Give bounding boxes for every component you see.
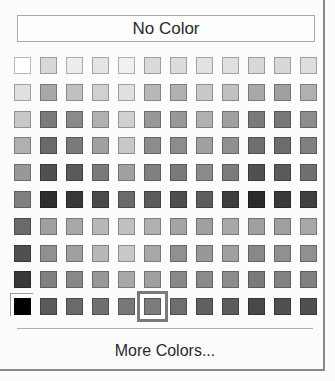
color-swatch-r1-c9[interactable] xyxy=(248,84,265,101)
color-swatch-r5-c11[interactable] xyxy=(300,191,317,208)
color-swatch-r8-c5[interactable] xyxy=(144,271,161,288)
color-swatch-r6-c10[interactable] xyxy=(274,218,291,235)
color-swatch-r7-c11[interactable] xyxy=(300,245,317,262)
color-swatch-r2-c1[interactable] xyxy=(40,111,57,128)
color-swatch-r1-c7[interactable] xyxy=(196,84,213,101)
color-swatch-r9-c3[interactable] xyxy=(92,298,109,315)
color-swatch-r7-c3[interactable] xyxy=(92,245,109,262)
color-swatch-r0-c9[interactable] xyxy=(248,57,265,74)
color-swatch-r2-c10[interactable] xyxy=(274,111,291,128)
color-swatch-r9-c0[interactable] xyxy=(14,298,31,315)
color-swatch-r1-c11[interactable] xyxy=(300,84,317,101)
color-swatch-r6-c5[interactable] xyxy=(144,218,161,235)
color-swatch-r0-c10[interactable] xyxy=(274,57,291,74)
color-swatch-r5-c4[interactable] xyxy=(118,191,135,208)
color-swatch-r5-c2[interactable] xyxy=(66,191,83,208)
color-swatch-r4-c1[interactable] xyxy=(40,164,57,181)
color-swatch-r2-c5[interactable] xyxy=(144,111,161,128)
color-swatch-r6-c4[interactable] xyxy=(118,218,135,235)
color-swatch-r2-c0[interactable] xyxy=(14,111,31,128)
color-swatch-r7-c9[interactable] xyxy=(248,245,265,262)
color-swatch-r3-c0[interactable] xyxy=(14,137,31,154)
color-swatch-r2-c9[interactable] xyxy=(248,111,265,128)
color-swatch-r0-c0[interactable] xyxy=(14,57,31,74)
color-swatch-r1-c0[interactable] xyxy=(14,84,31,101)
color-swatch-r0-c3[interactable] xyxy=(92,57,109,74)
color-swatch-r7-c0[interactable] xyxy=(14,245,31,262)
color-swatch-r9-c10[interactable] xyxy=(274,298,291,315)
color-swatch-r9-c7[interactable] xyxy=(196,298,213,315)
color-swatch-r4-c10[interactable] xyxy=(274,164,291,181)
color-swatch-r0-c8[interactable] xyxy=(222,57,239,74)
color-swatch-r6-c3[interactable] xyxy=(92,218,109,235)
color-swatch-r4-c6[interactable] xyxy=(170,164,187,181)
color-swatch-r2-c3[interactable] xyxy=(92,111,109,128)
color-swatch-r8-c9[interactable] xyxy=(248,271,265,288)
color-swatch-r5-c6[interactable] xyxy=(170,191,187,208)
color-swatch-r8-c3[interactable] xyxy=(92,271,109,288)
color-swatch-r6-c7[interactable] xyxy=(196,218,213,235)
color-swatch-r8-c10[interactable] xyxy=(274,271,291,288)
color-swatch-r9-c9[interactable] xyxy=(248,298,265,315)
color-swatch-r0-c5[interactable] xyxy=(144,57,161,74)
color-swatch-r7-c7[interactable] xyxy=(196,245,213,262)
color-swatch-r0-c6[interactable] xyxy=(170,57,187,74)
color-swatch-r5-c3[interactable] xyxy=(92,191,109,208)
color-swatch-r2-c4[interactable] xyxy=(118,111,135,128)
color-swatch-r8-c0[interactable] xyxy=(14,271,31,288)
color-swatch-r1-c2[interactable] xyxy=(66,84,83,101)
color-swatch-r5-c7[interactable] xyxy=(196,191,213,208)
color-swatch-r3-c1[interactable] xyxy=(40,137,57,154)
color-swatch-r4-c7[interactable] xyxy=(196,164,213,181)
color-swatch-r7-c4[interactable] xyxy=(118,245,135,262)
color-swatch-r3-c4[interactable] xyxy=(118,137,135,154)
color-swatch-r8-c8[interactable] xyxy=(222,271,239,288)
color-swatch-r5-c10[interactable] xyxy=(274,191,291,208)
color-swatch-r7-c6[interactable] xyxy=(170,245,187,262)
color-swatch-r8-c6[interactable] xyxy=(170,271,187,288)
color-swatch-r4-c4[interactable] xyxy=(118,164,135,181)
color-swatch-r1-c4[interactable] xyxy=(118,84,135,101)
color-swatch-r3-c8[interactable] xyxy=(222,137,239,154)
color-swatch-r2-c2[interactable] xyxy=(66,111,83,128)
color-swatch-r1-c5[interactable] xyxy=(144,84,161,101)
color-swatch-r4-c2[interactable] xyxy=(66,164,83,181)
color-swatch-r8-c2[interactable] xyxy=(66,271,83,288)
color-swatch-r1-c8[interactable] xyxy=(222,84,239,101)
color-swatch-r3-c2[interactable] xyxy=(66,137,83,154)
color-swatch-r8-c11[interactable] xyxy=(300,271,317,288)
color-swatch-r8-c4[interactable] xyxy=(118,271,135,288)
color-swatch-r0-c7[interactable] xyxy=(196,57,213,74)
color-swatch-r6-c2[interactable] xyxy=(66,218,83,235)
color-swatch-r6-c1[interactable] xyxy=(40,218,57,235)
color-swatch-r5-c1[interactable] xyxy=(40,191,57,208)
color-swatch-r2-c6[interactable] xyxy=(170,111,187,128)
color-swatch-r1-c6[interactable] xyxy=(170,84,187,101)
color-swatch-r6-c9[interactable] xyxy=(248,218,265,235)
color-swatch-r5-c0[interactable] xyxy=(14,191,31,208)
color-swatch-r7-c5[interactable] xyxy=(144,245,161,262)
color-swatch-r5-c5[interactable] xyxy=(144,191,161,208)
color-swatch-r7-c1[interactable] xyxy=(40,245,57,262)
color-swatch-r4-c5[interactable] xyxy=(144,164,161,181)
color-swatch-r3-c11[interactable] xyxy=(300,137,317,154)
color-swatch-r2-c8[interactable] xyxy=(222,111,239,128)
color-swatch-r1-c1[interactable] xyxy=(40,84,57,101)
color-swatch-r9-c2[interactable] xyxy=(66,298,83,315)
color-swatch-r8-c1[interactable] xyxy=(40,271,57,288)
color-swatch-r0-c2[interactable] xyxy=(66,57,83,74)
color-swatch-r3-c7[interactable] xyxy=(196,137,213,154)
color-swatch-r9-c8[interactable] xyxy=(222,298,239,315)
color-swatch-r6-c8[interactable] xyxy=(222,218,239,235)
color-swatch-r9-c4[interactable] xyxy=(118,298,135,315)
color-swatch-r0-c4[interactable] xyxy=(118,57,135,74)
color-swatch-r7-c10[interactable] xyxy=(274,245,291,262)
color-swatch-r2-c7[interactable] xyxy=(196,111,213,128)
color-swatch-r4-c8[interactable] xyxy=(222,164,239,181)
color-swatch-r2-c11[interactable] xyxy=(300,111,317,128)
color-swatch-r8-c7[interactable] xyxy=(196,271,213,288)
color-swatch-r0-c11[interactable] xyxy=(300,57,317,74)
color-swatch-r4-c9[interactable] xyxy=(248,164,265,181)
color-swatch-r9-c6[interactable] xyxy=(170,298,187,315)
color-swatch-r9-c5[interactable] xyxy=(144,298,161,315)
